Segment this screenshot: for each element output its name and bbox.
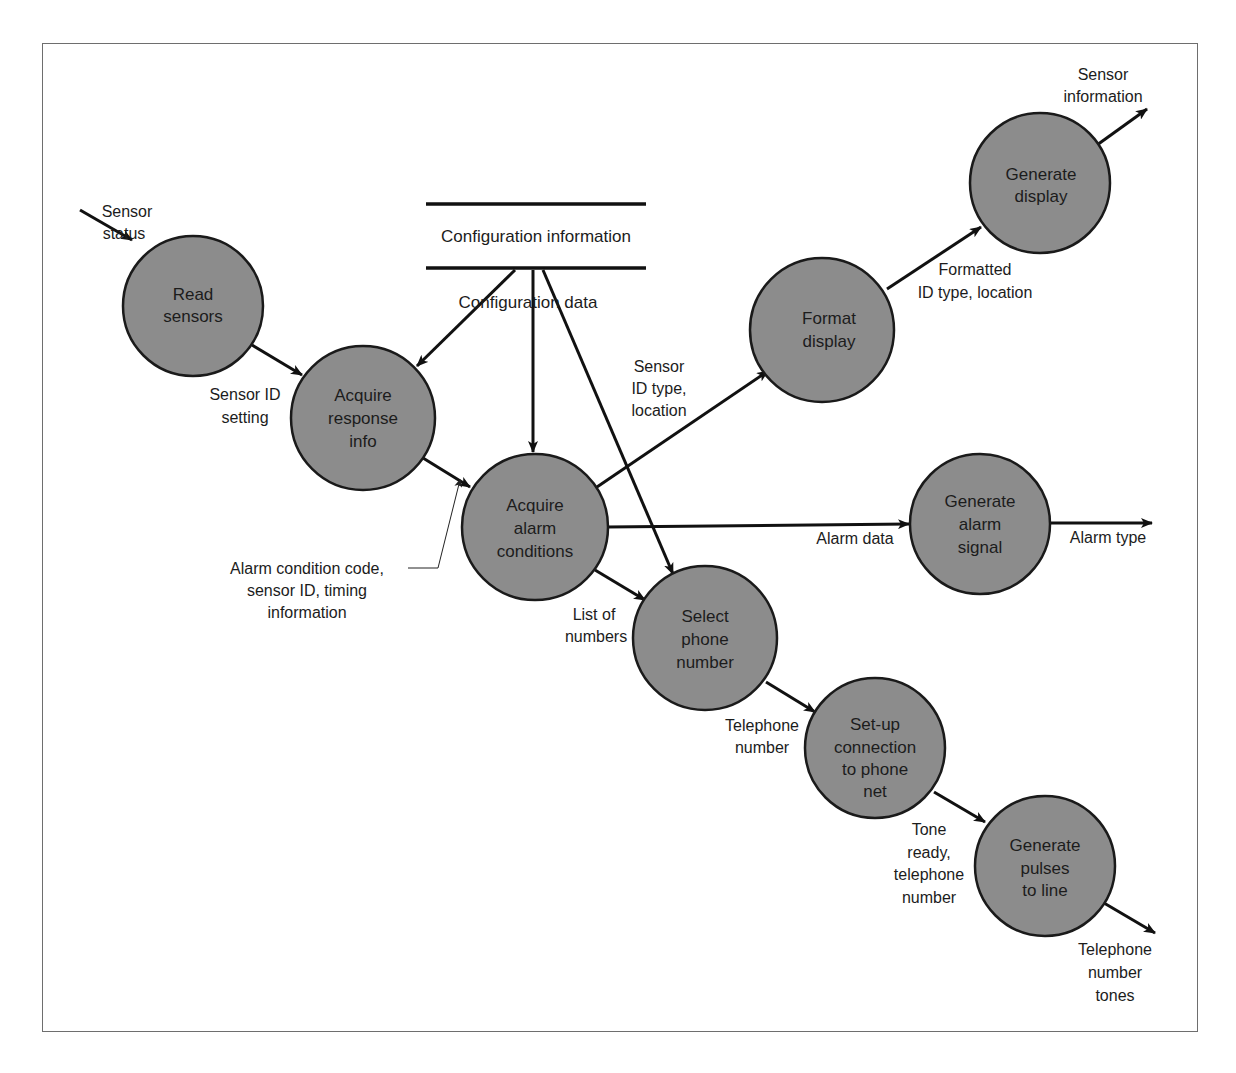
data-flow-diagram: Configuration information Read sensors A… [0, 0, 1236, 1073]
process-label-line: net [863, 782, 887, 801]
flow-label-sensor-id-type: Sensor [634, 358, 685, 375]
data-store-configuration: Configuration information [426, 204, 646, 268]
process-label-line: Generate [1006, 165, 1077, 184]
flow-label-telephone-tones: tones [1095, 987, 1134, 1004]
process-generate-alarm-signal: Generate alarm signal [910, 454, 1050, 594]
flow-label-tone-ready: number [902, 889, 957, 906]
process-generate-display: Generate display [970, 113, 1110, 253]
flow-label-telephone-tones: number [1088, 964, 1143, 981]
process-label-line: alarm [514, 519, 557, 538]
flow-label-telephone-number: number [735, 739, 790, 756]
flow-label-sensor-id-setting: setting [221, 409, 268, 426]
flow-label-tone-ready: Tone [912, 821, 947, 838]
flow-label-alarm-condition: information [267, 604, 346, 621]
process-read-sensors: Read sensors [123, 236, 263, 376]
process-label-line: alarm [959, 515, 1002, 534]
flow-arrow-telephone-number [766, 682, 815, 712]
flow-label-sensor-id-setting: Sensor ID [209, 386, 280, 403]
process-label-line: Generate [1010, 836, 1081, 855]
flow-label-tone-ready: telephone [894, 866, 964, 883]
process-label-line: pulses [1020, 859, 1069, 878]
process-setup-connection: Set-up connection to phone net [805, 678, 945, 818]
flow-label-telephone-tones: Telephone [1078, 941, 1152, 958]
flow-arrow-telephone-number-tones [1104, 903, 1155, 933]
flow-label-sensor-id-type: location [631, 402, 686, 419]
process-label-line: info [349, 432, 376, 451]
flow-label-list-of-numbers: List of [573, 606, 616, 623]
annotation-leader-line [408, 480, 460, 568]
process-format-display: Format display [750, 258, 894, 402]
process-label-line: to line [1022, 881, 1067, 900]
process-label-line: Select [681, 607, 729, 626]
flow-label-list-of-numbers: numbers [565, 628, 627, 645]
flow-arrow-tone-ready [934, 792, 985, 822]
flow-label-alarm-condition: sensor ID, timing [247, 582, 367, 599]
flow-label-formatted-id: ID type, location [918, 284, 1033, 301]
process-label-line: signal [958, 538, 1002, 557]
process-acquire-response-info: Acquire response info [291, 346, 435, 490]
flow-label-sensor-status: Sensor [102, 203, 153, 220]
flow-label-telephone-number: Telephone [725, 717, 799, 734]
process-circle [123, 236, 263, 376]
process-circle [750, 258, 894, 402]
process-label-line: conditions [497, 542, 574, 561]
process-label-line: Set-up [850, 715, 900, 734]
process-label-line: Acquire [506, 496, 564, 515]
process-label-line: connection [834, 738, 916, 757]
process-label-line: sensors [163, 307, 223, 326]
process-select-phone-number: Select phone number [633, 566, 777, 710]
process-label-line: Format [802, 309, 856, 328]
flow-arrow-sensor-information [1097, 109, 1147, 145]
flow-arrow-sensor-id-setting [252, 345, 302, 375]
process-label-line: phone [681, 630, 728, 649]
process-label-line: Acquire [334, 386, 392, 405]
flow-arrow-alarm-condition-code [423, 458, 470, 487]
process-label-line: Generate [945, 492, 1016, 511]
data-store-label: Configuration information [441, 227, 631, 246]
flow-arrow-config-to-acquire-response [417, 270, 515, 366]
process-label-line: response [328, 409, 398, 428]
flow-label-configuration-data: Configuration data [459, 293, 598, 312]
flow-label-sensor-information: Sensor [1078, 66, 1129, 83]
flow-label-sensor-information: information [1063, 88, 1142, 105]
process-label-line: to phone [842, 760, 908, 779]
flow-label-alarm-type: Alarm type [1070, 529, 1147, 546]
flow-label-alarm-condition: Alarm condition code, [230, 560, 384, 577]
process-label-line: Read [173, 285, 214, 304]
process-label-line: display [1015, 187, 1068, 206]
flow-arrow-formatted-id [887, 227, 981, 289]
flow-label-sensor-id-type: ID type, [631, 380, 686, 397]
flow-label-alarm-data: Alarm data [816, 530, 893, 547]
process-label-line: number [676, 653, 734, 672]
flow-label-tone-ready: ready, [907, 844, 950, 861]
flow-label-sensor-status: status [103, 225, 146, 242]
process-acquire-alarm-conditions: Acquire alarm conditions [462, 454, 608, 600]
flow-arrow-list-of-numbers [595, 570, 645, 600]
flow-label-formatted-id: Formatted [939, 261, 1012, 278]
process-generate-pulses: Generate pulses to line [975, 796, 1115, 936]
process-label-line: display [803, 332, 856, 351]
